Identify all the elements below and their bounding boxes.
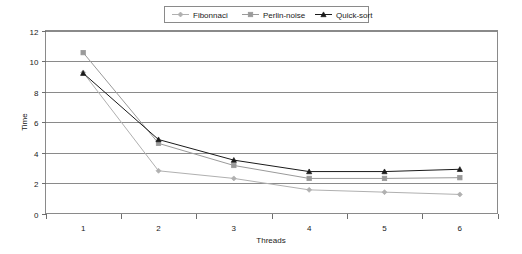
chart-container: 024681012 123456 Threads Time FibonnaciP…: [0, 0, 522, 254]
y-axis-tick-labels: 024681012: [30, 28, 39, 220]
legend-label: Fibonnaci: [193, 11, 228, 20]
data-point-marker-diamond: [231, 176, 236, 181]
x-tick-label: 1: [81, 224, 86, 233]
y-axis-title: Time: [20, 113, 29, 131]
y-tick-label: 4: [34, 150, 39, 159]
y-tick-label: 0: [34, 211, 39, 220]
data-point-marker-diamond: [382, 190, 387, 195]
data-point-marker-square: [458, 175, 462, 179]
y-tick-label: 2: [34, 180, 39, 189]
data-point-marker-diamond: [457, 192, 462, 197]
line-chart: 024681012 123456 Threads Time FibonnaciP…: [0, 0, 522, 254]
x-tick-label: 5: [382, 224, 387, 233]
x-axis-ticks: [47, 214, 499, 219]
legend-label: Quick-sort: [336, 11, 373, 20]
data-point-marker-square: [307, 176, 311, 180]
series-group: [81, 50, 463, 197]
data-point-marker-square: [232, 163, 236, 167]
gridlines-group: [46, 32, 498, 184]
series-perlin-noise: [81, 50, 462, 180]
data-point-marker-square: [81, 50, 85, 54]
data-point-marker-square: [382, 176, 386, 180]
y-tick-label: 6: [34, 119, 39, 128]
legend-entries: FibonnaciPerlin-noiseQuick-sort: [172, 11, 373, 20]
y-tick-label: 12: [30, 28, 39, 37]
legend-label: Perlin-noise: [263, 11, 306, 20]
x-tick-label: 6: [458, 224, 463, 233]
x-tick-label: 4: [307, 224, 312, 233]
series-line: [83, 53, 460, 179]
data-point-marker-square: [248, 12, 252, 16]
series-line: [83, 72, 460, 194]
x-axis-title: Threads: [256, 236, 285, 245]
x-axis-tick-labels: 123456: [81, 224, 463, 233]
y-tick-label: 8: [34, 89, 39, 98]
y-tick-label: 10: [30, 58, 39, 67]
x-tick-label: 3: [232, 224, 237, 233]
data-point-marker-diamond: [307, 187, 312, 192]
y-axis-ticks: [42, 32, 46, 215]
legend: FibonnaciPerlin-noiseQuick-sort: [165, 7, 374, 23]
x-tick-label: 2: [156, 224, 161, 233]
